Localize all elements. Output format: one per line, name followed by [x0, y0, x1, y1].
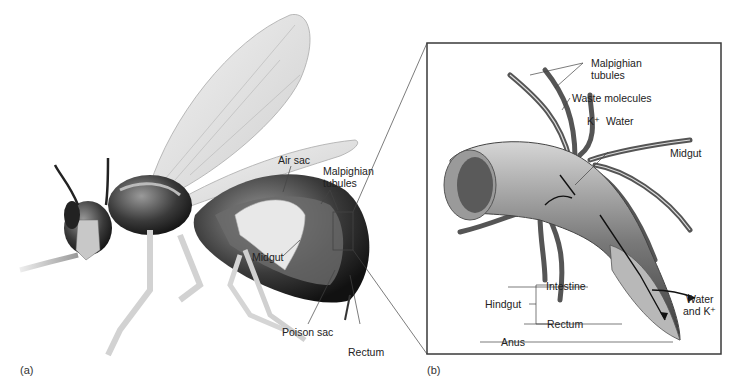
label-malpighian-a-line2: tubules: [323, 177, 357, 189]
excretory-system-figure: (a) Air sac Malpighian tubules Midgut Po…: [0, 0, 740, 390]
label-rectum-a: Rectum: [348, 346, 384, 358]
wasp-illustration: [20, 14, 369, 355]
label-k-ion: K⁺: [587, 115, 600, 127]
label-anus: Anus: [501, 336, 525, 348]
label-intestine: Intestine: [546, 280, 586, 292]
label-midgut-b: Midgut: [670, 147, 702, 159]
panel-a-tag: (a): [20, 364, 33, 376]
label-water-k-line2: and K⁺: [683, 305, 716, 317]
label-water-k-line1: Water: [686, 293, 714, 305]
panel-b-tag: (b): [427, 364, 440, 376]
label-air-sac: Air sac: [278, 154, 310, 166]
label-malpighian-b-line1: Malpighian: [591, 57, 642, 69]
label-malpighian-b-line2: tubules: [591, 69, 625, 81]
label-malpighian-a-line1: Malpighian: [323, 165, 374, 177]
label-poison-sac: Poison sac: [282, 326, 333, 338]
label-rectum-b: Rectum: [547, 318, 583, 330]
label-midgut-a: Midgut: [252, 251, 284, 263]
label-waste-molecules: Waste molecules: [572, 92, 652, 104]
label-water: Water: [606, 115, 634, 127]
label-hindgut: Hindgut: [485, 298, 521, 310]
